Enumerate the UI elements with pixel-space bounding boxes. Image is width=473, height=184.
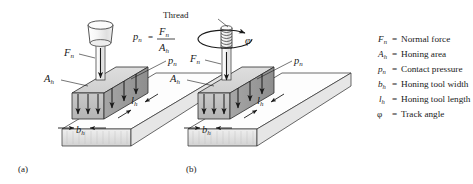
legend-symbol-0: Fn [377, 34, 388, 45]
legend-symbol-4: lh [379, 94, 386, 105]
legend-row-tool-width: bh = Honing tool width [378, 79, 469, 90]
legend: Fn = Normal force Ah = Honing area pn = … [377, 34, 471, 119]
legend-equals-3: = [392, 79, 397, 89]
legend-equals-2: = [392, 64, 397, 74]
label-thread-b: Thread [163, 10, 189, 20]
legend-description-5: Track angle [401, 109, 444, 119]
formula-lhs: pn [132, 31, 142, 44]
legend-symbol-1: Ah [377, 49, 388, 60]
legend-row-tool-length: lh = Honing tool length [379, 94, 471, 105]
legend-symbol-3: bh [378, 79, 387, 90]
label-normal-force-a: Fn [63, 47, 74, 60]
threaded-tool-b [221, 26, 232, 80]
label-honing-area-a: Ah [43, 73, 54, 86]
legend-row-contact-pressure: pn = Contact pressure [377, 64, 463, 75]
caption-a: (a) [18, 164, 28, 174]
caption-b: (b) [186, 164, 197, 174]
legend-equals-4: = [392, 94, 397, 104]
legend-symbol-2: pn [377, 64, 387, 75]
figure-canvas: Fn Ah pn bh lh (a) [0, 0, 473, 184]
legend-description-1: Honing area [401, 49, 446, 59]
legend-row-track-angle: φ = Track angle [377, 109, 444, 119]
legend-description-3: Honing tool width [401, 79, 469, 89]
legend-equals-1: = [392, 49, 397, 59]
legend-description-2: Contact pressure [401, 64, 463, 74]
legend-description-0: Normal force [401, 34, 450, 44]
label-track-angle-b: φ [245, 35, 251, 46]
legend-row-honing-area: Ah = Honing area [377, 49, 446, 60]
slab-end-face-b [188, 129, 257, 146]
formula-denominator: Ah [158, 42, 169, 55]
legend-description-4: Honing tool length [401, 94, 471, 104]
legend-equals-0: = [392, 34, 397, 44]
formula-contact-pressure: pn = Fn Ah [132, 26, 175, 55]
slab-end-face-a [62, 129, 131, 146]
legend-equals-5: = [392, 109, 397, 119]
label-contact-pressure-a: pn [167, 55, 177, 68]
tool-head-bottom-a [90, 40, 111, 47]
formula-equals: = [148, 32, 153, 42]
tool-head-top-a [88, 21, 113, 29]
thread-body-b [221, 28, 232, 48]
label-contact-pressure-b: pn [293, 55, 303, 68]
panel-a: Fn Ah pn bh lh (a) [18, 21, 225, 174]
honing-pressure-figure: Fn Ah pn bh lh (a) [0, 0, 473, 184]
legend-symbol-5: φ [377, 109, 382, 119]
formula-numerator: Fn [158, 26, 169, 39]
thread-callout-b: Thread [163, 10, 228, 27]
legend-row-normal-force: Fn = Normal force [377, 34, 450, 45]
label-normal-force-b: Fn [189, 53, 200, 66]
